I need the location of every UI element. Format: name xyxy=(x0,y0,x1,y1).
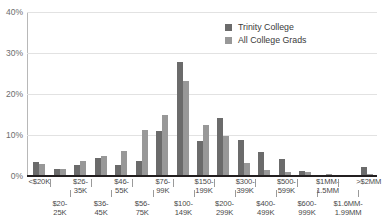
x-tick-mark xyxy=(214,179,215,187)
plot-area xyxy=(27,12,377,176)
bar xyxy=(101,156,107,176)
bars-layer xyxy=(27,12,377,176)
x-tick-label: $150- 199K xyxy=(184,178,224,195)
x-tick-label: $300- 399K xyxy=(225,178,265,195)
x-tick-label: $100- 149K xyxy=(163,200,203,217)
x-tick-label: $26- 35K xyxy=(60,178,100,195)
x-tick-label: $36- 45K xyxy=(81,200,121,217)
bar-group xyxy=(193,12,213,176)
x-tick-mark xyxy=(338,179,339,187)
bar-group xyxy=(49,12,69,176)
x-tick-label: $46- 55K xyxy=(102,178,142,195)
legend-item: All College Grads xyxy=(225,35,306,45)
legend-swatch-icon xyxy=(225,24,232,31)
x-tick-label: $400- 499K xyxy=(246,200,286,217)
bar-group xyxy=(90,12,110,176)
x-tick-label: $1MM- 1.5MM xyxy=(308,178,348,195)
bar-group xyxy=(29,12,49,176)
bar-group xyxy=(172,12,192,176)
x-tick-label: $200- 299K xyxy=(205,200,245,217)
y-tick-label: 20% xyxy=(6,89,23,99)
x-tick-mark xyxy=(358,190,359,197)
bar xyxy=(121,151,127,176)
x-tick-label: $1.6MM- 1.99MM xyxy=(328,200,368,217)
x-tick-mark xyxy=(173,179,174,187)
y-tick-label: 40% xyxy=(6,7,23,17)
y-tick-label: 10% xyxy=(6,130,23,140)
x-tick-label: $600- 999K xyxy=(287,200,327,217)
y-tick-label: 30% xyxy=(6,48,23,58)
legend-swatch-icon xyxy=(225,37,232,44)
x-tick-label: $56- 75K xyxy=(122,200,162,217)
bar-group xyxy=(336,12,356,176)
bar-group xyxy=(70,12,90,176)
bar xyxy=(183,81,189,176)
x-tick-mark xyxy=(50,179,51,187)
bar xyxy=(80,161,86,176)
bar-group xyxy=(131,12,151,176)
x-tick-label: $76- 99K xyxy=(143,178,183,195)
x-tick-mark xyxy=(255,179,256,187)
x-tick-mark xyxy=(297,179,298,187)
x-axis-labels: <$20K$20- 25K$26- 35K$36- 45K$46- 55K$56… xyxy=(27,178,377,223)
y-axis-labels: 0%10%20%30%40% xyxy=(0,12,25,176)
legend-label: Trinity College xyxy=(238,22,294,32)
legend-item: Trinity College xyxy=(225,22,306,32)
x-tick-mark xyxy=(91,179,92,187)
x-tick-label: $500- 599K xyxy=(266,178,306,195)
legend-label: All College Grads xyxy=(238,35,306,45)
bar-chart: 0%10%20%30%40% Trinity CollegeAll Colleg… xyxy=(0,0,383,223)
bar-group xyxy=(111,12,131,176)
x-tick-mark xyxy=(132,179,133,187)
bar-group xyxy=(357,12,377,176)
x-tick-label: $20- 25K xyxy=(40,200,80,217)
legend: Trinity CollegeAll College Grads xyxy=(225,22,306,48)
bar xyxy=(203,125,209,176)
bar xyxy=(142,130,148,176)
x-tick-label: <$20K xyxy=(19,178,59,187)
bar-group xyxy=(316,12,336,176)
x-tick-label: >$2MM xyxy=(349,178,383,187)
bar-group xyxy=(152,12,172,176)
bar xyxy=(223,136,229,176)
bar xyxy=(162,115,168,176)
